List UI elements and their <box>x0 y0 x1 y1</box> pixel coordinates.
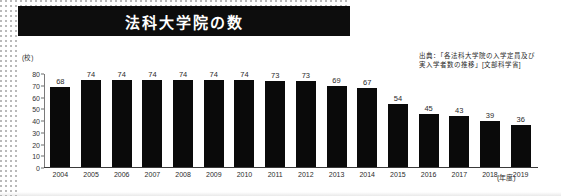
bar-value-label: 74 <box>240 70 248 79</box>
y-axis-tick-mark <box>41 121 44 122</box>
y-axis-tick-mark <box>41 156 44 157</box>
x-axis-tick-label: 2010 <box>237 171 253 178</box>
x-axis-tick-label: 2005 <box>83 171 99 178</box>
chart-title-bar: 法科大学院の数 <box>18 6 350 36</box>
x-axis-tick-label: 2004 <box>53 171 69 178</box>
x-axis-tick-label: 2008 <box>175 171 191 178</box>
bar-value-label: 74 <box>118 70 126 79</box>
x-axis-tick-label: 2007 <box>145 171 161 178</box>
bar: 74 <box>112 80 132 167</box>
bar: 74 <box>204 80 224 167</box>
y-axis-tick-mark <box>41 85 44 86</box>
source-credit-line-1: 出典：「各法科大学院の入学定員及び <box>419 51 535 60</box>
source-credit: 出典：「各法科大学院の入学定員及び 実入学者数の推移」[文部科学省] <box>419 51 535 69</box>
x-axis-unit-label: (年度) <box>497 172 516 182</box>
bar: 54 <box>388 104 408 167</box>
bar-value-label: 36 <box>516 115 524 124</box>
x-axis-tick-label: 2012 <box>298 171 314 178</box>
bar: 39 <box>480 121 500 167</box>
y-axis-tick-label: 40 <box>32 118 40 125</box>
x-axis-tick-label: 2014 <box>359 171 375 178</box>
y-axis-tick-mark <box>41 168 44 169</box>
bar-value-label: 73 <box>302 71 310 80</box>
bar-group: 682004 <box>45 74 76 167</box>
bar: 68 <box>50 87 70 167</box>
chart-panel-top-right-fill <box>350 0 561 36</box>
y-axis-tick-mark <box>41 132 44 133</box>
plot-area: 80706050403020100 6820047420057420067420… <box>44 74 536 168</box>
bar: 36 <box>511 125 531 167</box>
bar-value-label: 69 <box>332 76 340 85</box>
bar: 43 <box>449 116 469 167</box>
y-axis-tick-label: 80 <box>32 71 40 78</box>
bar: 73 <box>265 81 285 167</box>
bar-group: 742005 <box>76 74 107 167</box>
y-axis-tick-label: 70 <box>32 82 40 89</box>
x-axis-tick-label: 2013 <box>329 171 345 178</box>
bar-group: 392018 <box>475 74 506 167</box>
bar-group: 542015 <box>383 74 414 167</box>
x-axis-line <box>44 167 538 168</box>
bar-value-label: 43 <box>455 106 463 115</box>
x-axis-tick-label: 2006 <box>114 171 130 178</box>
source-credit-line-2: 実入学者数の推移」[文部科学省] <box>419 60 535 69</box>
bar-group: 452016 <box>413 74 444 167</box>
y-axis-tick-mark <box>41 144 44 145</box>
bar-group: 362019 <box>505 74 536 167</box>
page-edge-shading <box>0 192 561 196</box>
bar-value-label: 68 <box>56 77 64 86</box>
bar-group: 742006 <box>106 74 137 167</box>
bar-value-label: 67 <box>363 78 371 87</box>
bar-group: 742007 <box>137 74 168 167</box>
page-title: 法科大学院の数 <box>125 11 244 32</box>
bar: 69 <box>327 86 347 167</box>
bar-series: 6820047420057420067420077420087420097420… <box>45 74 536 167</box>
bar-group: 742010 <box>229 74 260 167</box>
y-axis-tick-label: 0 <box>36 165 40 172</box>
x-axis-tick-label: 2016 <box>421 171 437 178</box>
bar-value-label: 74 <box>210 70 218 79</box>
bar-value-label: 74 <box>87 70 95 79</box>
bar-group: 692013 <box>321 74 352 167</box>
y-axis-tick-mark <box>41 74 44 75</box>
y-axis-tick-label: 10 <box>32 153 40 160</box>
bar-value-label: 74 <box>179 70 187 79</box>
bar-group: 672014 <box>352 74 383 167</box>
y-axis-unit-label: (校) <box>22 52 33 62</box>
bar-value-label: 54 <box>394 94 402 103</box>
bar: 67 <box>357 88 377 167</box>
x-axis-tick-label: 2017 <box>451 171 467 178</box>
bar: 45 <box>419 114 439 167</box>
bar-value-label: 45 <box>424 104 432 113</box>
bar-value-label: 39 <box>486 111 494 120</box>
x-axis-tick-label: 2009 <box>206 171 222 178</box>
y-axis-tick-label: 50 <box>32 106 40 113</box>
bar: 74 <box>81 80 101 167</box>
bar-value-label: 74 <box>148 70 156 79</box>
y-axis-tick-label: 30 <box>32 129 40 136</box>
bar: 74 <box>234 80 254 167</box>
y-axis-tick-mark <box>41 97 44 98</box>
bar: 74 <box>142 80 162 167</box>
x-axis-tick-label: 2015 <box>390 171 406 178</box>
x-axis-tick-label: 2018 <box>482 171 498 178</box>
x-axis-tick-label: 2011 <box>268 171 283 178</box>
bar-group: 742009 <box>198 74 229 167</box>
bar-group: 432017 <box>444 74 475 167</box>
bar: 74 <box>173 80 193 167</box>
bar-group: 732012 <box>291 74 322 167</box>
bar-group: 742008 <box>168 74 199 167</box>
y-axis-tick-label: 20 <box>32 141 40 148</box>
chart-figure: 法科大学院の数 出典：「各法科大学院の入学定員及び 実入学者数の推移」[文部科学… <box>0 0 561 196</box>
bar: 73 <box>296 81 316 167</box>
bar-value-label: 73 <box>271 71 279 80</box>
y-axis-tick-mark <box>41 109 44 110</box>
y-axis-tick-label: 60 <box>32 94 40 101</box>
bar-group: 732011 <box>260 74 291 167</box>
